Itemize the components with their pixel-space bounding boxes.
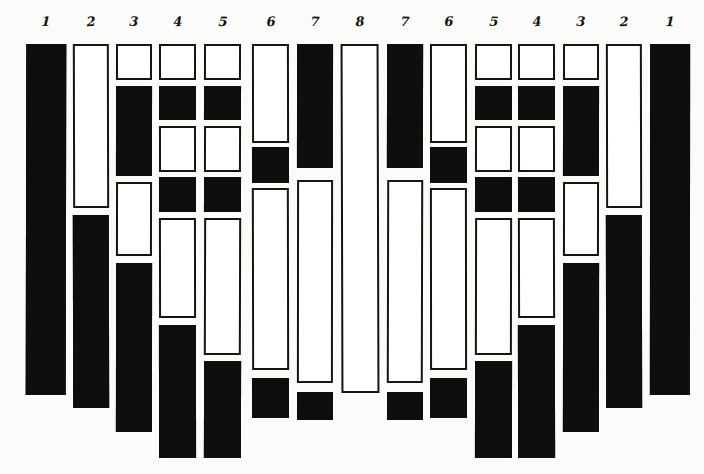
bar-column xyxy=(518,0,555,474)
bar-column xyxy=(73,0,109,474)
bar-segment-filled xyxy=(204,177,241,212)
column-label: 8 xyxy=(340,13,381,30)
bar-segment-filled xyxy=(73,215,109,408)
bar-segment-open xyxy=(563,44,599,80)
bar-segment-filled xyxy=(204,86,241,120)
bar-segment-filled xyxy=(518,177,555,212)
bar-segment-filled xyxy=(252,147,289,183)
column-label: 7 xyxy=(295,14,335,30)
bar-segment-open xyxy=(159,218,196,318)
figure-canvas: 123456787654321 xyxy=(0,0,704,474)
bar-column xyxy=(297,0,333,474)
bar-segment-filled xyxy=(387,44,423,168)
column-label: 1 xyxy=(650,14,690,30)
column-label: 7 xyxy=(385,13,426,30)
bar-column xyxy=(563,0,599,474)
bar-segment-filled xyxy=(430,378,467,418)
column-label: 4 xyxy=(157,13,197,29)
bar-segment-open xyxy=(430,188,467,370)
bar-column xyxy=(26,0,66,474)
bar-segment-filled xyxy=(563,86,599,176)
bar-segment-filled xyxy=(606,215,642,408)
column-label: 3 xyxy=(114,13,154,29)
bar-segment-filled xyxy=(159,177,196,212)
bar-segment-filled xyxy=(650,44,690,395)
bar-segment-filled xyxy=(116,263,152,432)
bar-column xyxy=(650,0,690,474)
bar-segment-open xyxy=(606,44,642,208)
bar-segment-open xyxy=(518,218,555,318)
bar-segment-filled xyxy=(204,361,241,458)
bar-segment-open xyxy=(518,44,555,80)
bar-segment-open xyxy=(73,44,109,208)
column-label: 2 xyxy=(71,13,112,30)
bar-segment-open xyxy=(475,126,512,172)
column-label: 1 xyxy=(26,13,67,30)
bar-segment-open xyxy=(159,126,196,172)
bar-segment-open xyxy=(475,218,512,355)
bar-segment-open xyxy=(341,44,380,393)
column-label: 5 xyxy=(202,13,243,30)
bar-segment-filled xyxy=(563,263,599,432)
bar-segment-filled xyxy=(159,325,196,458)
bar-segment-open xyxy=(116,182,152,256)
bar-segment-open xyxy=(252,44,289,143)
bar-column xyxy=(430,0,467,474)
bar-segment-filled xyxy=(518,325,555,458)
column-label: 6 xyxy=(428,14,468,30)
bar-segment-filled xyxy=(116,86,152,176)
bar-segment-filled xyxy=(159,86,196,120)
bar-segment-open xyxy=(387,180,423,383)
bar-segment-filled xyxy=(387,392,423,420)
bar-column xyxy=(387,0,423,474)
bar-column xyxy=(204,0,241,474)
bar-column xyxy=(606,0,642,474)
column-label: 2 xyxy=(604,13,645,30)
bar-segment-open xyxy=(204,126,241,172)
column-label: 5 xyxy=(473,13,514,30)
column-label: 3 xyxy=(561,13,601,29)
bar-segment-filled xyxy=(475,177,512,212)
bar-segment-filled xyxy=(518,86,555,120)
bar-segment-filled xyxy=(475,86,512,120)
column-label: 4 xyxy=(516,13,557,30)
bar-column xyxy=(116,0,152,474)
bar-segment-open xyxy=(430,44,467,143)
bar-segment-open xyxy=(518,126,555,172)
bar-segment-open xyxy=(563,182,599,256)
bar-segment-filled xyxy=(297,392,333,420)
bar-segment-filled xyxy=(297,44,333,168)
bar-column xyxy=(475,0,512,474)
bar-segment-open xyxy=(252,188,289,370)
bar-column xyxy=(159,0,196,474)
bar-segment-filled xyxy=(475,361,512,458)
bar-segment-filled xyxy=(430,147,467,183)
column-label: 6 xyxy=(250,13,291,30)
bar-segment-open xyxy=(297,180,333,383)
bar-segment-open xyxy=(204,44,241,80)
bar-column xyxy=(341,0,379,474)
bar-segment-open xyxy=(475,44,512,80)
bar-segment-open xyxy=(159,44,196,80)
bar-segment-filled xyxy=(26,44,67,395)
bar-segment-open xyxy=(204,218,241,355)
bar-segment-open xyxy=(116,44,152,80)
bar-column xyxy=(252,0,289,474)
bar-segment-filled xyxy=(252,378,289,418)
